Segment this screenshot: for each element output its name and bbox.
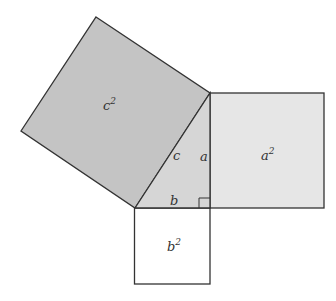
label-side-b: b [170,193,178,208]
pythagorean-diagram: c2 a2 b2 c a b [0,0,336,301]
label-side-c: c [173,148,181,163]
label-side-a: a [200,149,208,164]
